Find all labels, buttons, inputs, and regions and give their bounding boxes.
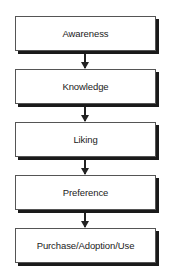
stage-label: Liking [73,134,97,145]
arrow-down-icon [84,160,86,174]
stage-label: Purchase/Adoption/Use [37,240,135,251]
stage-box-purchase-adoption-use: Purchase/Adoption/Use [15,228,156,263]
stage-box-awareness: Awareness [15,16,156,51]
hierarchy-of-effects-diagram: Awareness Knowledge Liking Preference Pu… [0,0,174,279]
stage-box-liking: Liking [15,122,156,157]
arrow-down-icon [84,107,86,121]
arrow-down-icon [84,54,86,68]
stage-box-knowledge: Knowledge [15,69,156,104]
stage-box-preference: Preference [15,175,156,210]
stage-label: Knowledge [62,81,108,92]
stage-label: Preference [63,187,108,198]
stage-label: Awareness [63,28,109,39]
arrow-down-icon [84,213,86,227]
